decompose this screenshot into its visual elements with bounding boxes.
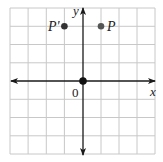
x-axis-label: x [149, 84, 156, 99]
point-p-label: P [106, 19, 116, 34]
coordinate-plane: x y 0 P P' [0, 0, 163, 162]
y-axis-label: y [71, 3, 79, 18]
point-p-prime-label: P' [47, 19, 61, 34]
origin-label: 0 [72, 85, 79, 100]
point-p [98, 23, 105, 30]
origin-point [79, 77, 87, 85]
point-p-prime [61, 23, 68, 30]
